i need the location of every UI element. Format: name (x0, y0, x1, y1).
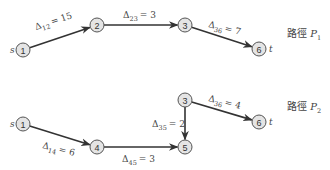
svg-text:6: 6 (256, 45, 261, 55)
source-label: s (10, 45, 15, 55)
path-1: Δ12= 15Δ23= 3Δ36= 71s236t路徑 P1 (10, 10, 321, 57)
node-1: 1 (16, 117, 30, 131)
node-6: 6 (252, 42, 266, 56)
svg-text:3: 3 (182, 96, 187, 106)
node-5: 5 (178, 140, 192, 154)
node-4: 4 (90, 140, 104, 154)
node-6: 6 (252, 115, 266, 129)
svg-text:5: 5 (182, 143, 187, 153)
edge-label: Δ35= 2 (152, 119, 185, 132)
edge-label: Δ23= 3 (123, 10, 156, 23)
path-label-1: 路徑 P1 (287, 27, 321, 42)
edge-label: Δ12= 15 (34, 10, 75, 34)
edge-label: Δ45= 3 (122, 154, 155, 167)
edge-label: Δ36= 7 (207, 19, 242, 40)
edge-label: Δ36= 4 (207, 93, 242, 114)
node-2: 2 (90, 18, 104, 32)
svg-text:4: 4 (94, 143, 99, 153)
flow-diagram: Δ12= 15Δ23= 3Δ36= 71s236t路徑 P1Δ14= 6Δ45=… (0, 0, 330, 170)
node-3: 3 (178, 93, 192, 107)
diagram-svg: Δ12= 15Δ23= 3Δ36= 71s236t路徑 P1Δ14= 6Δ45=… (0, 0, 330, 170)
edge-label: Δ14= 6 (41, 140, 76, 161)
edge-1-4 (30, 126, 90, 145)
svg-text:1: 1 (20, 46, 25, 56)
svg-text:2: 2 (94, 21, 99, 31)
svg-text:3: 3 (182, 21, 187, 31)
node-3: 3 (178, 18, 192, 32)
source-label: s (10, 119, 15, 129)
sink-label: t (269, 44, 273, 54)
sink-label: t (269, 117, 273, 127)
svg-text:1: 1 (20, 120, 25, 130)
path-2: Δ14= 6Δ45= 3Δ35= 2Δ36= 41s4536t路徑 P2 (10, 93, 321, 167)
node-1: 1 (16, 43, 30, 57)
path-label-2: 路徑 P2 (287, 100, 321, 115)
svg-text:6: 6 (256, 118, 261, 128)
